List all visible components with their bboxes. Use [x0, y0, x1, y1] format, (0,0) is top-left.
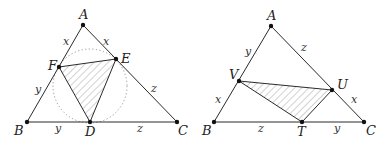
point-B-left: [25, 120, 29, 124]
seg-label-BF: y: [34, 83, 42, 96]
seg-label-AU: z: [300, 41, 307, 54]
right-shaded-triangle-TUV: [239, 81, 332, 122]
point-F: [57, 65, 61, 69]
label-V: V: [229, 67, 240, 82]
seg-label-CE: z: [150, 82, 157, 95]
seg-label-CU: x: [351, 93, 358, 106]
right-figure: A B C T U V y z x z x y: [201, 8, 376, 139]
label-B-right: B: [201, 123, 212, 138]
point-E: [114, 57, 118, 61]
left-figure: A B C D E F x x y y z z: [13, 7, 188, 139]
label-F: F: [47, 58, 58, 73]
geometry-figure: A B C D E F x x y y z z A B C T U V y z …: [0, 0, 389, 143]
label-U: U: [337, 77, 349, 92]
label-A-left: A: [78, 7, 88, 22]
point-B-right: [212, 120, 216, 124]
seg-label-AE: x: [103, 35, 110, 48]
label-A-right: A: [266, 8, 276, 23]
seg-label-BD: y: [54, 122, 62, 135]
seg-label-CD: z: [136, 122, 143, 135]
seg-label-BV: x: [215, 93, 222, 106]
label-T: T: [297, 124, 307, 139]
label-C-right: C: [366, 123, 376, 138]
label-E: E: [120, 51, 131, 66]
seg-label-CT: y: [333, 122, 341, 135]
label-B-left: B: [13, 123, 24, 138]
seg-label-AV: y: [244, 45, 252, 58]
left-shaded-triangle-DEF: [59, 59, 116, 122]
label-C-left: C: [178, 123, 188, 138]
diagram-svg: A B C D E F x x y y z z A B C T U V y z …: [0, 0, 389, 143]
label-D: D: [84, 124, 96, 139]
point-A-left: [81, 23, 85, 27]
point-U: [330, 88, 334, 92]
seg-label-AF: x: [63, 35, 70, 48]
seg-label-BT: z: [257, 122, 264, 135]
point-A-right: [269, 24, 273, 28]
